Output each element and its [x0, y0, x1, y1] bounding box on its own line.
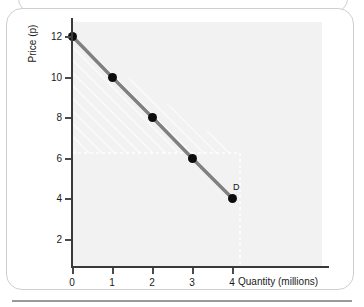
y-tick-label-12: 12: [42, 31, 62, 42]
y-tick-label-10: 10: [42, 72, 62, 83]
demand-curve-chart: D 12 10 8 6 4 2 0 1 2 3 4 Price (p) Quan…: [0, 0, 364, 307]
data-point-1: [108, 73, 117, 82]
y-tick-label-6: 6: [42, 153, 62, 164]
x-tick-3: [192, 268, 194, 274]
data-point-2: [148, 113, 157, 122]
x-tick-1: [112, 268, 114, 274]
y-tick-label-4: 4: [42, 193, 62, 204]
x-tick-0: [72, 268, 74, 274]
y-axis-title: Price (p): [27, 9, 38, 79]
y-tick-12: [65, 36, 71, 38]
x-tick-label-3: 3: [182, 277, 202, 288]
x-tick-label-0: 0: [62, 277, 82, 288]
y-tick-6: [65, 158, 71, 160]
x-tick-label-1: 1: [102, 277, 122, 288]
y-tick-8: [65, 117, 71, 119]
y-tick-10: [65, 77, 71, 79]
x-axis-line: [71, 266, 329, 268]
x-tick-2: [152, 268, 154, 274]
data-point-3: [188, 154, 197, 163]
x-tick-label-2: 2: [142, 277, 162, 288]
data-point-4: [228, 194, 237, 203]
y-tick-2: [65, 239, 71, 241]
y-axis-line: [71, 18, 73, 268]
y-tick-label-8: 8: [42, 112, 62, 123]
y-tick-4: [65, 198, 71, 200]
x-axis-title: Quantity (millions): [238, 276, 318, 287]
series-label-demand: D: [233, 182, 240, 192]
x-tick-4: [232, 268, 234, 274]
y-tick-label-2: 2: [42, 234, 62, 245]
